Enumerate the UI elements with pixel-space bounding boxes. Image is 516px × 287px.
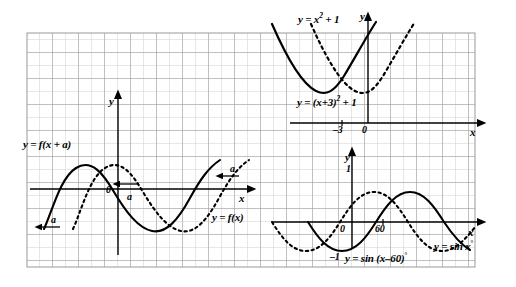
bottomright-x-axis-label: x [468, 227, 473, 238]
background-grid [27, 33, 475, 267]
bottomright-tick-zero: 0 [340, 224, 345, 234]
bottomright-dashed-curve-label: y = sin x° [434, 240, 473, 252]
bottomright-solid-curve-label: y = sin (x–60)° [345, 252, 407, 264]
left-solid-curve-label: y = f(x + a) [23, 139, 71, 150]
topright-tick-zero: 0 [362, 125, 367, 135]
bottomright-tick-minus-one: –1 [330, 252, 340, 262]
topright-solid-curve-label: y = (x+3)2 + 1 [297, 95, 357, 108]
topright-y-axis-label: y [360, 11, 365, 22]
bottomright-y-axis-label: y [345, 152, 350, 163]
topright-x-axis-label: x [470, 127, 475, 138]
bottomright-tick-one: 1 [346, 164, 351, 174]
left-shift-label-top: a [230, 164, 235, 174]
topright-tick-minus3: –3 [333, 125, 343, 135]
left-shift-label-bottom: a [51, 215, 56, 225]
left-origin-label: 0 [106, 185, 111, 195]
figure-canvas: y = f(x + a) y = f(x) y x 0 a a a y = x2… [0, 0, 516, 287]
bottomright-tick-sixty: 60 [375, 224, 385, 234]
left-x-axis-label: x [239, 193, 244, 204]
left-y-axis-label: y [109, 96, 114, 107]
left-shift-label-mid: a [127, 192, 132, 202]
topright-dashed-curve-label: y = x2 + 1 [298, 12, 339, 25]
left-dashed-curve-label: y = f(x) [212, 212, 244, 223]
